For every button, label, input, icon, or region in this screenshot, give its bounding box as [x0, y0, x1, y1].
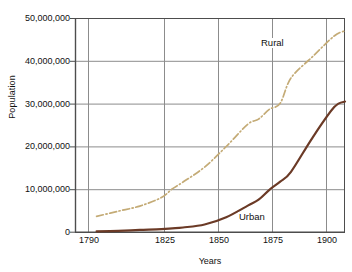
plot-area [0, 0, 352, 272]
plot-background [75, 18, 345, 232]
population-line-chart: Population Years [0, 0, 352, 272]
y-axis-ticks [70, 19, 75, 233]
series-label-rural: Rural [260, 38, 285, 48]
series-label-urban: Urban [238, 212, 266, 222]
